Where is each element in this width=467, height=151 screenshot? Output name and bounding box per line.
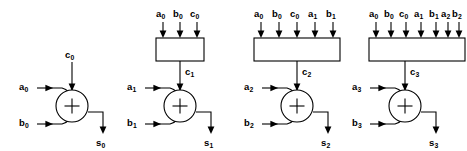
cell-1-carry-in-label: c1 — [185, 67, 194, 77]
cell-2-sum-arrowhead — [325, 126, 332, 134]
cell-2-operand-b-label: b2 — [244, 118, 254, 128]
cell-3-box-input-arrowhead-6 — [456, 30, 463, 38]
cell-2-box-input-label-0: a0 — [254, 9, 263, 19]
cell-1-operand-a-label: a1 — [127, 82, 136, 92]
cell-1-a-arrowhead — [153, 85, 161, 92]
cell-1-carry-box — [156, 38, 204, 61]
cell-3-box-input-arrowhead-0 — [373, 30, 380, 38]
cell-2-sum-wire — [313, 112, 328, 127]
cell-3-box-input-arrowhead-1 — [388, 30, 395, 38]
cell-3-operand-a-label: a3 — [352, 82, 361, 92]
cell-1-operand-b-label: b1 — [127, 118, 137, 128]
cell-0-operand-a-label: a0 — [19, 82, 28, 92]
cell-2-graphics — [254, 22, 340, 134]
cell-1-box-input-arrowhead-2 — [194, 30, 201, 38]
cell-1-box-input-arrowhead-1 — [177, 30, 184, 38]
cell-2-box-input-label-3: a1 — [308, 9, 317, 19]
cell-1-b-arrowhead — [153, 121, 161, 128]
cell-2-box-input-arrowhead-4 — [330, 30, 337, 38]
cell-3-box-input-label-2: c0 — [399, 9, 408, 19]
cell-3-box-input-arrowhead-2 — [403, 30, 410, 38]
cell-0-operand-b-label: b0 — [19, 118, 29, 128]
cell-1-box-input-label-1: b0 — [173, 9, 183, 19]
cell-3-box-input-arrowhead-5 — [445, 30, 452, 38]
cell-3-box-input-arrowhead-4 — [433, 30, 440, 38]
cell-3-box-input-label-0: a0 — [369, 9, 378, 19]
cell-3-box-input-label-3: a1 — [414, 9, 423, 19]
cell-1-graphics — [145, 22, 214, 134]
cell-3-sum-wire — [421, 112, 436, 127]
cell-3-carry-in-label: c3 — [410, 67, 419, 77]
cell-0-b-arrowhead — [45, 121, 53, 128]
cell-1-sum-wire — [196, 112, 211, 127]
cell-2-b-arrowhead — [270, 121, 278, 128]
cell-0-a-arrowhead — [45, 85, 53, 92]
cell-3-graphics — [369, 22, 465, 134]
cell-2-box-input-arrowhead-3 — [312, 30, 319, 38]
cell-1-box-input-arrowhead-0 — [160, 30, 167, 38]
cell-1-box-input-label-0: a0 — [156, 9, 165, 19]
cell-2-sum-label: s2 — [321, 138, 330, 148]
cell-2-box-input-arrowhead-2 — [294, 30, 301, 38]
cell-3-box-input-arrowhead-3 — [418, 30, 425, 38]
cell-2-operand-a-label: a2 — [244, 82, 253, 92]
cell-3-sum-label: s3 — [429, 138, 438, 148]
cell-0-sum-wire — [88, 112, 103, 127]
circuit-diagram: c0 a0 b0 s0 a0 b0 c0 c1 a1 b1 s1 a0 b0 c… — [0, 0, 467, 151]
cell-2-box-input-label-1: b0 — [272, 9, 282, 19]
cell-2-box-input-arrowhead-1 — [276, 30, 283, 38]
cell-1-sum-arrowhead — [208, 126, 215, 134]
cell-2-carry-box — [254, 38, 340, 61]
cell-0-sum-arrowhead — [100, 126, 107, 134]
cell-3-operand-b-label: b3 — [352, 118, 362, 128]
cell-3-b-arrowhead — [378, 121, 386, 128]
cell-3-sum-arrowhead — [433, 126, 440, 134]
cell-2-box-input-label-2: c0 — [290, 9, 299, 19]
cell-1-box-input-label-2: c0 — [190, 9, 199, 19]
diagram-canvas — [0, 0, 467, 151]
cell-3-box-input-label-5: a2 — [441, 9, 450, 19]
cell-0-carry-in-label: c0 — [65, 50, 74, 60]
cell-3-box-input-label-6: b2 — [452, 9, 462, 19]
cell-2-box-input-arrowhead-0 — [258, 30, 265, 38]
cell-0-sum-label: s0 — [96, 138, 105, 148]
cell-2-a-arrowhead — [270, 85, 278, 92]
cell-1-sum-label: s1 — [204, 138, 213, 148]
cell-3-carry-box — [369, 38, 465, 61]
cell-3-box-input-label-1: b0 — [384, 9, 394, 19]
cell-3-a-arrowhead — [378, 85, 386, 92]
cell-2-box-input-label-4: b1 — [326, 9, 336, 19]
cell-2-carry-in-label: c2 — [302, 67, 311, 77]
cell-0-graphics — [37, 62, 106, 134]
cell-3-box-input-label-4: b1 — [429, 9, 439, 19]
